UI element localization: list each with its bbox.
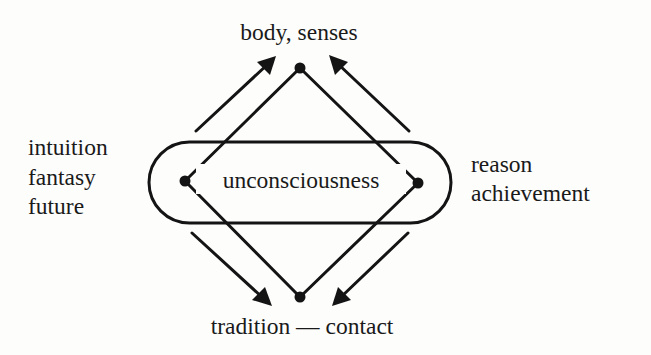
node-left: [180, 176, 191, 187]
bottom-label: tradition — contact: [211, 313, 394, 339]
top-label: body, senses: [240, 19, 357, 45]
left-label-intuition: intuition: [28, 134, 108, 160]
left-label-future: future: [28, 193, 84, 219]
center-label: unconsciousness: [223, 167, 380, 193]
right-label-achievement: achievement: [471, 180, 590, 206]
node-right: [413, 178, 424, 189]
node-bottom: [295, 292, 306, 303]
arrow-left-up: [196, 64, 268, 131]
right-label-reason: reason: [471, 151, 533, 177]
arrow-right-up: [337, 63, 409, 131]
left-label-fantasy: fantasy: [28, 164, 96, 190]
diagram-canvas: body, senses unconsciousness tradition —…: [0, 0, 651, 355]
arrow-left-down: [192, 233, 263, 298]
node-top: [295, 63, 306, 74]
arrow-right-down: [340, 233, 408, 298]
